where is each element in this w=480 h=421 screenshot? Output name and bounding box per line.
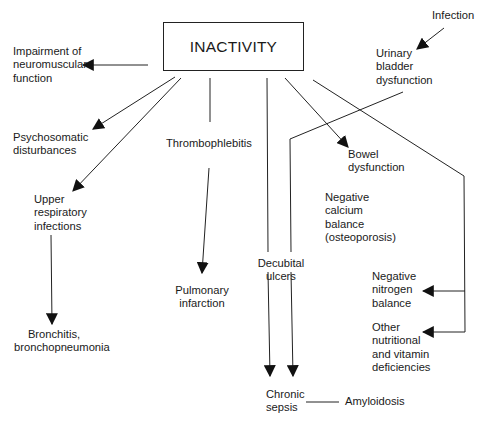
- node-negative-nitrogen: Negative nitrogen balance: [372, 270, 416, 310]
- node-other-nutritional: Other nutritional and vitamin deficienci…: [372, 321, 430, 374]
- inactivity-node: INACTIVITY: [163, 22, 304, 71]
- node-amyloidosis: Amyloidosis: [345, 395, 405, 408]
- edge-thrombophlebitis-pulmonary: [202, 168, 209, 273]
- node-bronchitis: Bronchitis, bronchopneumonia: [14, 328, 94, 355]
- node-thrombophlebitis: Thrombophlebitis: [166, 137, 252, 150]
- edge-decubital-sepsis: [268, 272, 270, 376]
- edge-inactivity-psychosomatic: [93, 77, 175, 129]
- node-bowel: Bowel dysfunction: [348, 148, 405, 175]
- node-pulmonary-infarction: Pulmonary infarction: [171, 284, 233, 311]
- node-impairment: Impairment of neuromuscular function: [13, 45, 87, 85]
- edge-inactivity-upper-respiratory: [73, 78, 181, 191]
- node-psychosomatic: Psychosomatic disturbances: [13, 131, 88, 158]
- edge-infection-urinary: [417, 28, 444, 49]
- node-upper-respiratory: Upper respiratory infections: [34, 193, 87, 233]
- node-infection: Infection: [432, 9, 474, 22]
- edge-inactivity-decubital: [267, 78, 268, 252]
- edge-urinary-sepsis-lower: [291, 272, 293, 376]
- inactivity-label: INACTIVITY: [190, 38, 277, 56]
- node-chronic-sepsis: Chronic sepsis: [266, 388, 305, 415]
- edge-upper-respiratory-bronchitis: [51, 235, 52, 324]
- node-negative-calcium: Negative calcium balance (osteoporosis): [325, 191, 396, 244]
- node-decubital-ulcers: Decubital ulcers: [256, 257, 306, 284]
- node-urinary-bladder: Urinary bladder dysfunction: [376, 47, 433, 87]
